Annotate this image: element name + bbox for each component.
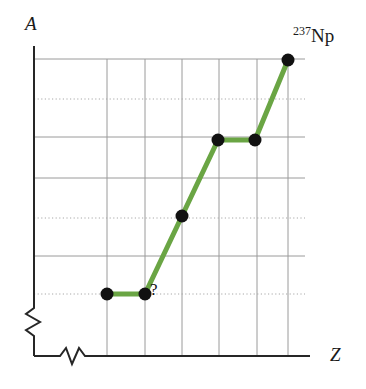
grid-vertical-lines [107,59,288,356]
nuclide-marker-4 [212,134,225,147]
unknown-nuclide-label: ? [150,281,158,298]
y-axis-label: A [25,14,37,33]
decay-chain-polyline [107,60,288,294]
nuclide-element-symbol: Np [311,25,334,46]
nuclide-marker-3 [176,210,189,223]
x-axis-label: Z [330,345,341,364]
plot-canvas [0,0,366,389]
decay-chain-figure: A Z 237Np ? [0,0,366,389]
axes-group [26,46,310,364]
nuclide-label-237np: 237Np [293,26,334,45]
grid-horizontal-lines [34,59,305,294]
nuclide-markers [101,54,295,301]
x-axis-line [34,348,310,364]
y-axis-line [26,46,40,356]
nuclide-marker-5 [249,134,262,147]
decay-chain-path [107,60,288,294]
nuclide-marker-1 [101,288,114,301]
nuclide-marker-6 [282,54,295,67]
nuclide-mass-number: 237 [293,24,311,38]
